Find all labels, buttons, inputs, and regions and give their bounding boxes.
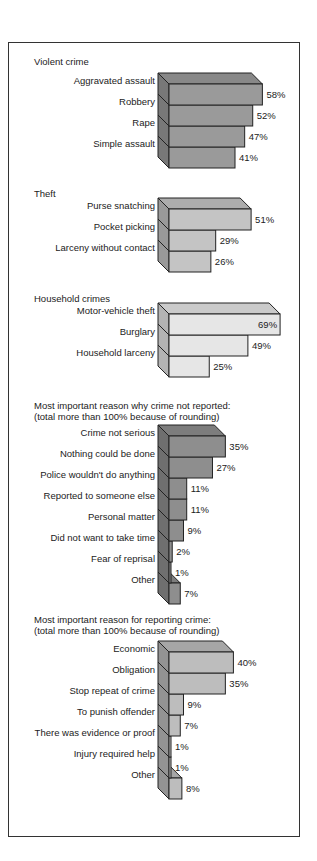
bar-label: To punish offender <box>5 706 155 717</box>
bar <box>169 694 183 715</box>
bar <box>169 652 233 673</box>
bar-label: Economic <box>5 643 155 654</box>
bar <box>169 736 171 757</box>
bar-label: There was evidence or proof <box>5 727 155 738</box>
value-label: 35% <box>229 678 248 689</box>
value-label: 1% <box>175 762 189 773</box>
bar-label: Other <box>5 769 155 780</box>
value-label: 8% <box>186 783 200 794</box>
value-label: 7% <box>184 720 198 731</box>
bar <box>169 715 180 736</box>
value-label: 1% <box>175 741 189 752</box>
bar-label: Obligation <box>5 664 155 675</box>
bar <box>169 778 182 799</box>
value-label: 40% <box>237 657 256 668</box>
bar <box>169 757 171 778</box>
bar-top-face <box>158 641 233 652</box>
bar-label: Injury required help <box>5 748 155 759</box>
bar-label: Stop repeat of crime <box>5 685 155 696</box>
bar <box>169 673 225 694</box>
value-label: 9% <box>187 699 201 710</box>
